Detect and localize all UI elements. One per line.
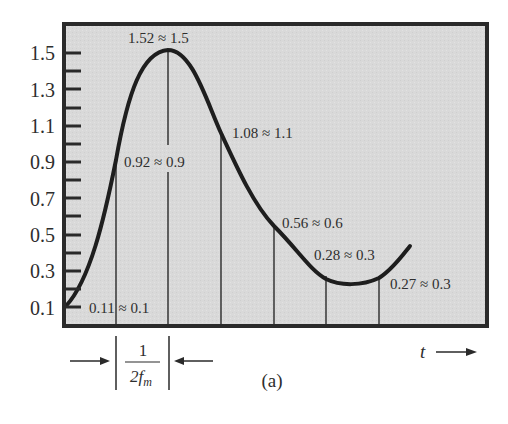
sample-interval-indicator: 1 2fm bbox=[70, 336, 213, 390]
y-axis-labels: 1.5 1.3 1.1 0.9 0.7 0.5 0.3 0.1 bbox=[30, 42, 55, 319]
y-tick-label: 0.9 bbox=[30, 151, 55, 173]
interval-denominator: 2fm bbox=[130, 367, 152, 389]
sample-label: 0.92 ≈ 0.9 bbox=[124, 154, 185, 170]
y-tick-label: 0.1 bbox=[30, 297, 55, 319]
y-tick-label: 0.5 bbox=[30, 224, 55, 246]
sampled-signal-figure: 1.5 1.3 1.1 0.9 0.7 0.5 0.3 0.1 0.11 ≈ 0… bbox=[0, 0, 508, 424]
time-arrow-head-icon bbox=[466, 348, 477, 356]
y-tick-label: 0.7 bbox=[30, 188, 55, 210]
sample-label: 0.27 ≈ 0.3 bbox=[390, 276, 451, 292]
sample-label: 0.11 ≈ 0.1 bbox=[89, 300, 149, 316]
arrow-right-head-icon bbox=[100, 357, 110, 365]
y-tick-label: 0.3 bbox=[30, 260, 55, 282]
time-axis-indicator: t bbox=[420, 341, 477, 362]
interval-numerator: 1 bbox=[139, 341, 148, 360]
figure-caption: (a) bbox=[261, 370, 282, 392]
y-tick-label: 1.3 bbox=[30, 79, 55, 101]
sample-label: 0.56 ≈ 0.6 bbox=[282, 215, 343, 231]
sample-label: 0.28 ≈ 0.3 bbox=[314, 247, 375, 263]
time-axis-label: t bbox=[420, 341, 426, 362]
y-tick-label: 1.1 bbox=[30, 115, 55, 137]
y-tick-label: 1.5 bbox=[30, 42, 55, 64]
sample-label: 1.52 ≈ 1.5 bbox=[128, 30, 189, 46]
arrow-left-head-icon bbox=[174, 357, 184, 365]
sample-label: 1.08 ≈ 1.1 bbox=[232, 125, 293, 141]
